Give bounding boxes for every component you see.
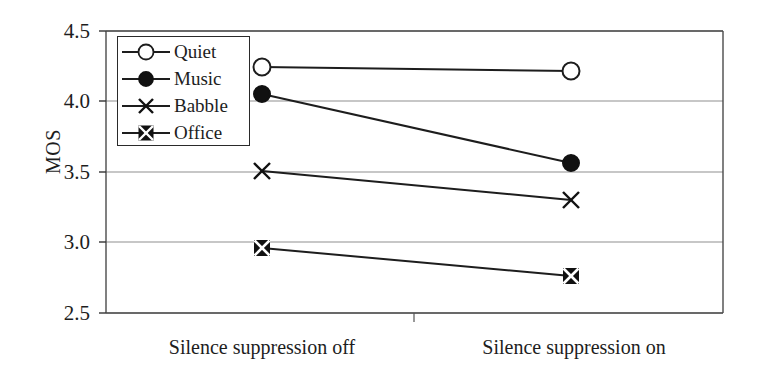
y-tick-label-4-5: 4.5 xyxy=(34,19,90,44)
y-tick-label-4-0: 4.0 xyxy=(34,89,90,114)
legend-label-office: Office xyxy=(174,123,222,142)
y-tick-marks xyxy=(99,31,106,313)
legend-marker-open-circle-icon xyxy=(118,39,174,65)
y-tick-label-3-5: 3.5 xyxy=(34,160,90,185)
chart-figure: MOS 4.5 4.0 3.5 3.0 2.5 Silence suppress… xyxy=(0,0,763,375)
legend-item-office[interactable]: Office xyxy=(118,119,251,146)
legend-label-quiet: Quiet xyxy=(174,42,216,61)
x-tick-label-on: Silence suppression on xyxy=(464,336,684,359)
y-tick-label-3-0: 3.0 xyxy=(34,230,90,255)
series-office-point-1 xyxy=(563,268,579,284)
series-music-point-1 xyxy=(563,155,579,171)
legend-item-music[interactable]: Music xyxy=(118,65,251,92)
legend-marker-x-cross-icon xyxy=(118,93,174,119)
legend-label-babble: Babble xyxy=(174,96,228,115)
series-quiet-point-1 xyxy=(563,63,580,80)
y-tick-label-2-5: 2.5 xyxy=(34,301,90,326)
legend-marker-filled-circle-icon xyxy=(118,66,174,92)
x-tick-label-off: Silence suppression off xyxy=(152,336,372,359)
legend-item-quiet[interactable]: Quiet xyxy=(118,38,251,65)
series-music-point-0 xyxy=(254,86,270,102)
legend-marker-filled-square-x-icon xyxy=(118,120,174,146)
series-office-point-0 xyxy=(254,240,270,256)
legend-item-babble[interactable]: Babble xyxy=(118,92,251,119)
legend-label-music: Music xyxy=(174,69,222,88)
line-chart-canvas xyxy=(0,0,763,375)
legend: Quiet Music Babble xyxy=(117,36,250,146)
series-quiet-point-0 xyxy=(254,59,271,76)
